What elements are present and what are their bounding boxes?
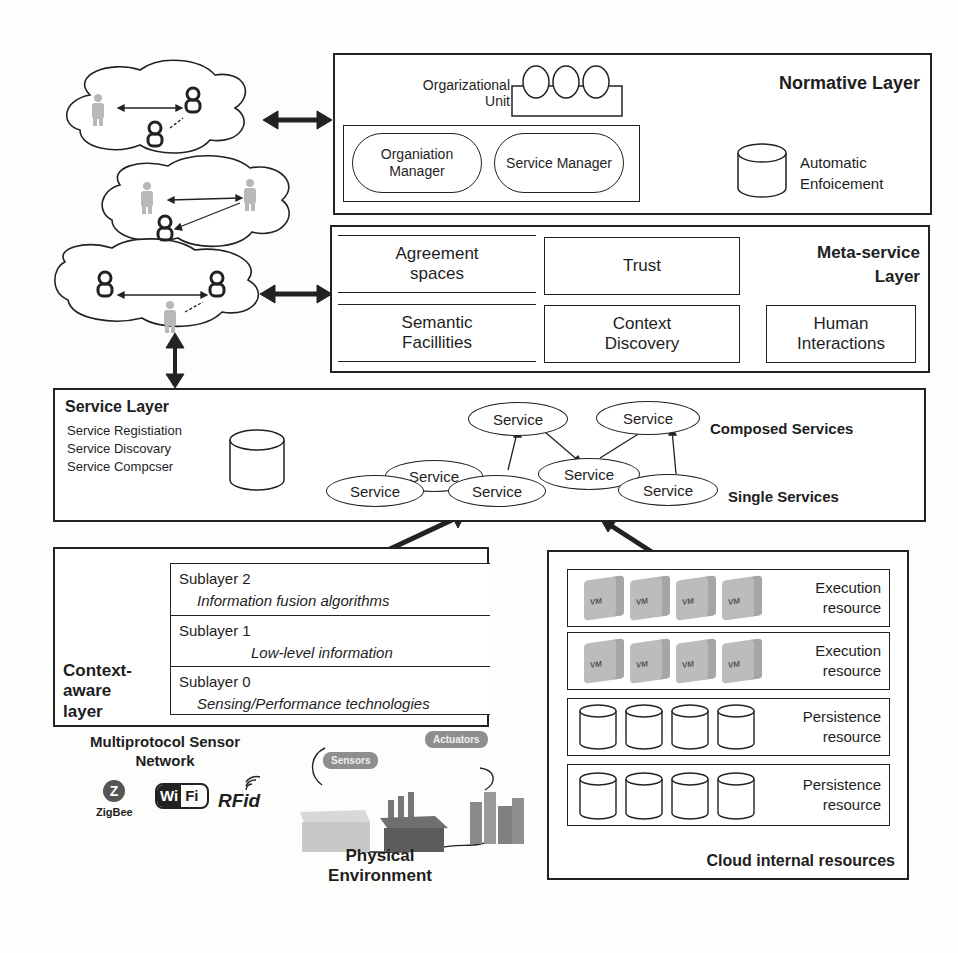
normative-layer-title: Normative Layer — [779, 73, 920, 94]
database-icon — [735, 143, 790, 203]
factory-icon — [380, 792, 448, 852]
meta-service-layer-title: Meta-service Layer — [817, 241, 920, 289]
actuators-tag: Actuators — [425, 731, 488, 748]
sensors-tag: Sensors — [323, 752, 378, 769]
semantic-facilities-cell[interactable]: Semantic Facillities — [338, 304, 536, 362]
meta-service-layer: Agreement spaces Trust Meta-service Laye… — [330, 225, 930, 373]
city-buildings-icon — [470, 792, 524, 844]
cloud-shape — [55, 239, 259, 327]
service-node-2[interactable]: Service — [326, 475, 424, 507]
social-clouds — [0, 0, 340, 300]
rfid-signal-icon — [243, 776, 263, 796]
execution-resource-row: VM VM VM VM Execution resource — [567, 569, 890, 627]
vm-icon: VM — [584, 638, 624, 684]
sensor-network-title: Multiprotocol Sensor Network — [80, 733, 250, 771]
vm-icon: VM — [630, 575, 670, 621]
service-node-composed-2[interactable]: Service — [596, 401, 700, 435]
database-icons — [576, 699, 776, 757]
vm-icon: VM — [722, 575, 762, 621]
persistence-resource-row: Persistence resource — [567, 698, 890, 756]
service-manager[interactable]: Service Manager — [494, 133, 624, 193]
automatic-enforcement-label: Automatic Enfoicement — [800, 152, 883, 194]
sublayer-2: Sublayer 2 Information fusion algorithms — [171, 564, 490, 615]
zigbee-label: ZigBee — [96, 806, 133, 819]
organization-manager[interactable]: Organiation Manager — [352, 133, 482, 193]
service-node-3[interactable]: Service — [448, 475, 546, 507]
cloud-shape — [102, 156, 289, 247]
vm-icon: VM — [676, 575, 716, 621]
database-icons — [576, 767, 776, 829]
sublayers-stack: Sublayer 2 Information fusion algorithms… — [170, 563, 490, 715]
managers-group: Organiation Manager Service Manager — [343, 125, 640, 202]
context-aware-layer-title: Context- aware layer — [63, 661, 132, 722]
org-unit-icon — [510, 60, 630, 120]
sublayer-0: Sublayer 0 Sensing/Performance technolog… — [171, 666, 490, 716]
execution-resource-row: VM VM VM VM Execution resource — [567, 632, 890, 690]
vm-icon: VM — [676, 638, 716, 684]
agreement-spaces-cell[interactable]: Agreement spaces — [338, 235, 536, 293]
persistence-resource-row: Persistence resource — [567, 764, 890, 826]
cloud-resources-title: Cloud internal resources — [707, 852, 896, 870]
service-node-composed-1[interactable]: Service — [468, 402, 568, 436]
zigbee-logo: Z — [103, 780, 125, 802]
human-interactions-cell[interactable]: Human Interactions — [766, 305, 916, 363]
single-services-label: Single Services — [728, 488, 839, 505]
sublayer-1: Sublayer 1 Low-level information — [171, 615, 490, 666]
org-unit-label: Orgarizational Unit — [385, 77, 510, 109]
vm-icon: VM — [630, 638, 670, 684]
physical-environment-illustration — [280, 730, 540, 860]
normative-layer: Normative Layer Orgarizational Unit Orga… — [333, 53, 932, 215]
wifi-logo: Wi Fi — [155, 783, 209, 809]
context-discovery-cell[interactable]: Context Discovery — [544, 305, 740, 363]
vm-icon: VM — [584, 575, 624, 621]
physical-environment-title: Physical Environment — [300, 846, 460, 887]
composed-services-label: Composed Services — [710, 420, 853, 437]
cloud-internal-resources: VM VM VM VM Execution resource VM VM VM … — [547, 550, 909, 880]
trust-cell[interactable]: Trust — [544, 237, 740, 295]
service-node-5[interactable]: Service — [618, 474, 718, 506]
context-aware-layer: Context- aware layer Sublayer 2 Informat… — [53, 547, 489, 727]
service-layer: Service Layer Service Registiation Servi… — [53, 388, 926, 522]
vm-icon: VM — [722, 638, 762, 684]
